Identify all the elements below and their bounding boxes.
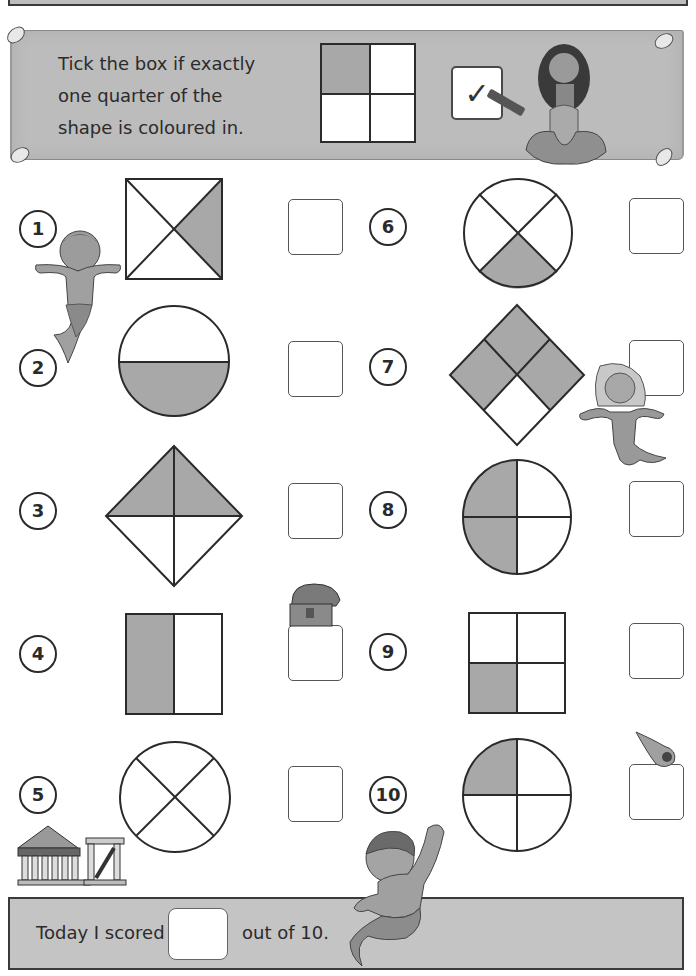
answer-box-9[interactable]: [629, 623, 684, 679]
example-shape: [320, 43, 416, 143]
shape-q8-circle-quarters: [462, 459, 572, 575]
shape-q7-diamond-grid: [449, 304, 585, 446]
shape-q10-circle-quarters: [462, 738, 572, 852]
question-number-7: 7: [369, 348, 407, 386]
question-number-8: 8: [369, 491, 407, 529]
answer-box-5[interactable]: [288, 766, 343, 822]
answer-box-6[interactable]: [629, 198, 684, 254]
answer-box-4[interactable]: [288, 625, 343, 681]
answer-box-3[interactable]: [288, 483, 343, 539]
shape-q3-diamond: [105, 445, 243, 587]
instruction-line: shape is coloured in.: [58, 112, 278, 144]
shape-q4-rectangle-half: [125, 613, 223, 715]
answer-box-2[interactable]: [288, 341, 343, 397]
score-prefix: Today I scored: [36, 922, 165, 943]
score-input-box[interactable]: [168, 908, 228, 960]
instruction-line: one quarter of the: [58, 80, 278, 112]
shape-q1-square-diagonals: [125, 178, 223, 280]
example-shaded-quarter: [322, 45, 369, 93]
score-suffix: out of 10.: [242, 922, 329, 943]
question-number-4: 4: [19, 635, 57, 673]
instruction-line: Tick the box if exactly: [58, 48, 278, 80]
tick-icon: ✓: [464, 76, 489, 111]
instruction-text: Tick the box if exactly one quarter of t…: [58, 48, 278, 144]
header-band: [8, 0, 688, 6]
answer-box-7[interactable]: [629, 340, 684, 396]
shape-q9-square-grid: [468, 612, 566, 714]
question-number-6: 6: [369, 208, 407, 246]
shape-q2-circle-half: [118, 305, 230, 417]
answer-box-1[interactable]: [288, 199, 343, 255]
answer-box-8[interactable]: [629, 481, 684, 537]
answer-box-10[interactable]: [629, 764, 684, 820]
treasure-chest-icon: [286, 582, 342, 628]
question-number-5: 5: [19, 776, 57, 814]
shape-q6-circle-cross: [463, 177, 573, 289]
question-number-1: 1: [19, 210, 57, 248]
question-number-10: 10: [369, 776, 407, 814]
question-number-2: 2: [19, 349, 57, 387]
question-number-9: 9: [369, 633, 407, 671]
greek-temple-icon: [16, 824, 128, 886]
question-number-3: 3: [19, 492, 57, 530]
shape-q5-circle-cross: [119, 740, 231, 854]
